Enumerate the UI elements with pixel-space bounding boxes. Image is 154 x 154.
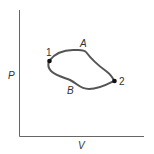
point-1-label: 1: [46, 47, 52, 58]
path-b-curve: [48, 61, 114, 89]
point-2-marker: [112, 79, 117, 84]
y-axis-label: P: [8, 70, 15, 81]
point-2-label: 2: [119, 76, 125, 87]
path-b-label: B: [67, 85, 74, 96]
pv-diagram: 1 2 A B P V: [0, 0, 154, 154]
x-axis-label: V: [78, 140, 86, 151]
point-1-marker: [47, 59, 52, 64]
path-a-label: A: [79, 38, 87, 49]
